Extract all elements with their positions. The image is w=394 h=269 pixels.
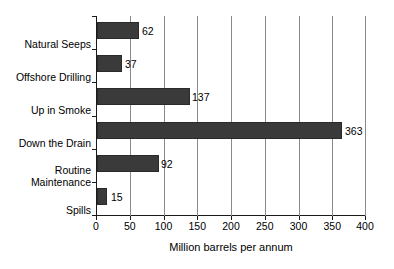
bar-down-the-drain [97,122,342,139]
bar-value-up-in-smoke: 137 [192,91,210,103]
x-tick-label-400: 400 [356,220,374,233]
gridline-300 [299,16,300,216]
gridline-50 [130,16,131,216]
x-axis-tick-labels: 0 50 100 150 200 250 300 350 400 [96,220,366,234]
bar-routine-maintenance [97,155,159,172]
category-label-spills: Spills [0,204,91,216]
y-axis-tick [92,82,96,83]
x-tick-label-0: 0 [93,220,99,233]
y-axis-line [96,16,97,216]
x-tick-label-300: 300 [290,220,308,233]
gridline-100 [164,16,165,216]
bar-chart: Natural Seeps Offshore Drilling Up in Sm… [0,0,394,269]
x-tick-label-100: 100 [155,220,173,233]
y-axis-tick [92,49,96,50]
bar-value-natural-seeps: 62 [142,25,154,37]
category-label-routine-maintenance: Routine Maintenance [0,164,91,188]
category-label-natural-seeps: Natural Seeps [0,38,91,50]
x-tick-label-150: 150 [188,220,206,233]
y-axis-tick [92,149,96,150]
x-tick-label-250: 250 [256,220,274,233]
category-label-offshore-drilling: Offshore Drilling [0,71,91,83]
x-axis-title: Million barrels per annum [96,240,366,254]
plot-area: 62 37 137 363 92 15 [96,16,366,216]
x-tick-label-350: 350 [323,220,341,233]
category-label-down-the-drain: Down the Drain [0,137,91,149]
category-label-up-in-smoke: Up in Smoke [0,104,91,116]
y-axis-tick [92,182,96,183]
y-axis-tick [92,116,96,117]
x-tick-label-200: 200 [222,220,240,233]
bar-value-routine-maintenance: 92 [161,158,173,170]
gridline-350 [332,16,333,216]
bar-value-spills: 15 [111,191,123,203]
bar-up-in-smoke [97,88,190,105]
bar-natural-seeps [97,22,139,39]
gridline-150 [197,16,198,216]
y-axis-tick [92,16,96,17]
bar-value-down-the-drain: 363 [345,125,363,137]
gridline-250 [265,16,266,216]
bar-value-offshore-drilling: 37 [125,58,137,70]
gridline-400 [365,16,366,216]
x-tick-label-50: 50 [124,220,136,233]
bar-offshore-drilling [97,55,122,72]
category-axis-labels: Natural Seeps Offshore Drilling Up in Sm… [0,16,91,216]
bar-spills [97,188,107,205]
gridline-200 [231,16,232,216]
